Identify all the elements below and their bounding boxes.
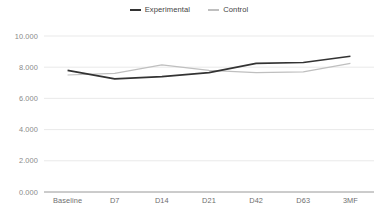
y-tick-label: 8.000 <box>19 63 38 72</box>
y-tick-label: 2.000 <box>19 156 38 165</box>
x-tick-label: D14 <box>155 196 169 205</box>
y-tick-label: 4.000 <box>19 125 38 134</box>
x-axis-tick-labels: BaselineD7D14D21D42D633MF <box>53 196 358 205</box>
plot-area: 0.0002.0004.0006.0008.00010.000 Baseline… <box>0 0 378 210</box>
x-tick-label: D7 <box>110 196 120 205</box>
y-tick-label: 10.000 <box>15 32 38 41</box>
x-tick-label: 3MF <box>343 196 358 205</box>
y-tick-label: 0.000 <box>19 188 38 197</box>
x-tick-label: D21 <box>202 196 216 205</box>
line-chart: Experimental Control 0.0002.0004.0006.00… <box>0 0 378 210</box>
y-tick-label: 6.000 <box>19 94 38 103</box>
plot-svg: 0.0002.0004.0006.0008.00010.000 Baseline… <box>0 0 378 210</box>
x-tick-label: D63 <box>296 196 310 205</box>
x-tick-label: D42 <box>249 196 263 205</box>
gridlines <box>44 36 374 161</box>
x-tick-label: Baseline <box>53 196 82 205</box>
y-axis-tick-labels: 0.0002.0004.0006.0008.00010.000 <box>15 32 38 197</box>
